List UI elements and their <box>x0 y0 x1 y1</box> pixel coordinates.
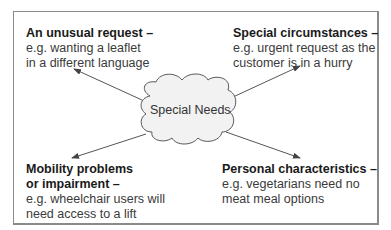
block-desc-line: customer is in a hurry <box>233 56 378 71</box>
arrow-to-bottom-right <box>226 132 300 158</box>
block-unusual-request: An unusual request – e.g. wanting a leaf… <box>26 26 153 71</box>
block-mobility-problems: Mobility problems or impairment – e.g. w… <box>26 162 165 222</box>
block-desc-line: e.g. vegetarians need no <box>222 177 377 192</box>
arrow-to-top-left <box>74 69 142 100</box>
block-title: Special circumstances – <box>233 26 378 41</box>
block-desc-line: e.g. wheelchair users will <box>26 192 165 207</box>
block-desc-line: e.g. wanting a leaflet <box>26 41 153 56</box>
block-title: An unusual request – <box>26 26 153 41</box>
block-desc-line: need access to a lift <box>26 207 165 222</box>
block-title: Mobility problems <box>26 162 165 177</box>
block-title: Personal characteristics – <box>222 162 377 177</box>
block-desc-line: e.g. urgent request as the <box>233 41 378 56</box>
block-desc-line: meat meal options <box>222 192 377 207</box>
center-label: Special Needs <box>150 103 230 117</box>
block-title: or impairment – <box>26 177 165 192</box>
block-special-circumstances: Special circumstances – e.g. urgent requ… <box>233 26 378 71</box>
block-personal-characteristics: Personal characteristics – e.g. vegetari… <box>222 162 377 207</box>
block-desc-line: in a different language <box>26 56 153 71</box>
arrow-to-bottom-left <box>72 134 146 158</box>
